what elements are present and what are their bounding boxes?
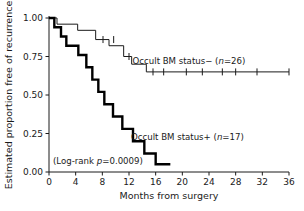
legend-label-positive: Occult BM status+ (n=17) [131,132,244,142]
x-tick-label: 8 [99,177,105,187]
logrank-annotation: (Log-rank p=0.0009) [53,156,143,166]
x-tick-label: 32 [257,177,268,187]
logrank-value: =0.0009) [102,156,143,166]
y-axis-title: Estimated proportion free of recurrence [3,1,14,190]
x-tick-label: 16 [150,177,162,187]
y-tick-label: 0.75 [23,52,43,62]
x-tick-label: 20 [177,177,189,187]
x-axis-title: Months from surgery [120,190,219,201]
y-tick-label: 0.00 [23,167,43,177]
logrank-text: (Log-rank [53,156,97,166]
legend-label-negative: Occult BM status− (n=26) [133,56,246,66]
x-tick-label: 12 [123,177,134,187]
y-tick-label: 0.25 [23,129,43,139]
legend-neg-count: =26) [224,56,246,66]
x-tick-label: 24 [203,177,215,187]
kaplan-meier-figure: 048121620242832360.000.250.500.751.00Mon… [0,0,304,211]
chart-svg: 048121620242832360.000.250.500.751.00Mon… [0,0,304,211]
y-tick-label: 0.50 [23,90,43,100]
y-tick-label: 1.00 [23,13,43,23]
legend-pos-text: Occult BM status+ ( [131,132,217,142]
x-tick-label: 36 [283,177,295,187]
legend-neg-text: Occult BM status− ( [133,56,219,66]
x-tick-label: 28 [230,177,242,187]
x-tick-label: 0 [46,177,52,187]
x-tick-label: 4 [73,177,79,187]
legend-pos-count: =17) [222,132,244,142]
